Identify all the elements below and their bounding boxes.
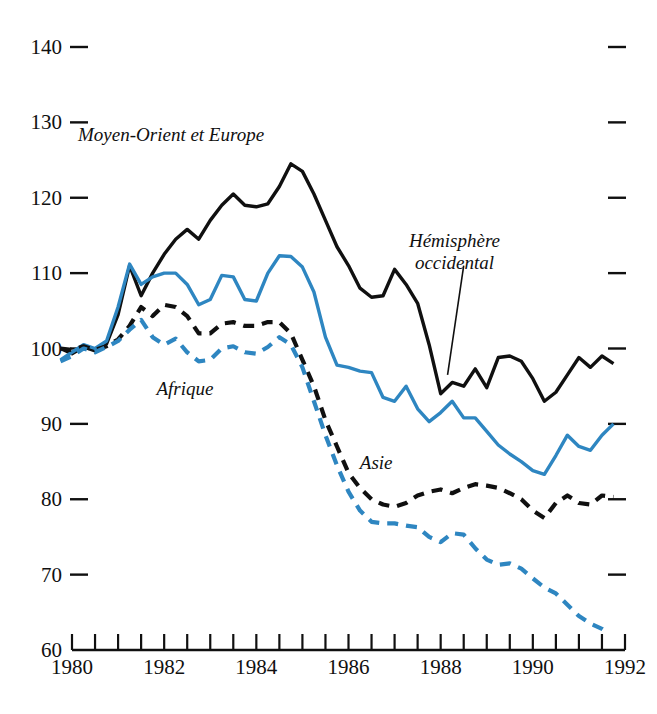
x-axis <box>72 634 625 650</box>
x-tick-label: 1990 <box>512 655 554 679</box>
y-axis-tick-labels: 14013012011010090807060 <box>31 35 63 662</box>
y-tick-label: 120 <box>31 186 63 210</box>
x-tick-label: 1986 <box>328 655 370 679</box>
series-annotations: Moyen-Orient et EuropeHémisphèreoccident… <box>77 124 500 473</box>
series-label-afrique: Afrique <box>154 378 213 399</box>
x-tick-label: 1992 <box>604 655 646 679</box>
line-chart: 14013012011010090807060 1980198219841986… <box>0 0 657 714</box>
y-tick-label: 110 <box>31 261 62 285</box>
x-tick-label: 1984 <box>235 655 278 679</box>
y-tick-label: 100 <box>31 337 63 361</box>
leader-line <box>448 266 464 375</box>
annotation-leader-line <box>448 266 464 375</box>
y-tick-label: 80 <box>41 487 62 511</box>
x-axis-tick-labels: 1980198219841986198819901992 <box>51 655 646 679</box>
series-label-moyen-orient-et-europe: Moyen-Orient et Europe <box>77 124 264 145</box>
x-tick-label: 1988 <box>420 655 462 679</box>
series-lines <box>60 164 613 633</box>
y-tick-label: 90 <box>41 412 62 436</box>
series-label-asie: Asie <box>358 452 393 473</box>
y-tick-label: 130 <box>31 110 63 134</box>
y-axis-tick-marks-right <box>608 47 626 575</box>
x-tick-label: 1980 <box>51 655 93 679</box>
x-tick-label: 1982 <box>143 655 185 679</box>
y-tick-label: 140 <box>31 35 63 59</box>
series-line-2 <box>60 305 613 518</box>
series-label-hemisphere-occidental: Hémisphèreoccidental <box>408 230 500 273</box>
y-tick-label: 70 <box>41 563 62 587</box>
chart-container: 14013012011010090807060 1980198219841986… <box>0 0 657 714</box>
